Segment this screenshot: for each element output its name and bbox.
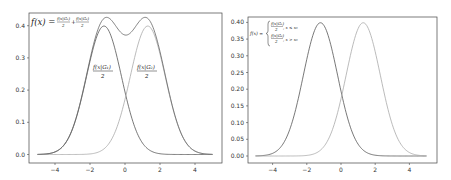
left-formula-frac1-den: 2 — [61, 23, 65, 28]
y-tick-label: 0.2 — [15, 86, 25, 93]
y-tick-label: 0.1 — [15, 118, 25, 125]
left-formula: f(x) = f(x|G₁) 2 + f(x|G₂) 2 — [30, 16, 89, 28]
right-chart: 0.000.050.100.150.200.250.300.350.40 −4−… — [231, 17, 437, 173]
y-tick-label: 0.10 — [231, 119, 245, 126]
left-axes-frame — [29, 13, 222, 163]
y-tick-label: 0.25 — [231, 69, 245, 76]
x-tick-label: 4 — [407, 166, 411, 173]
x-tick-label: −4 — [51, 166, 60, 173]
svg-text:f(x|G₂): f(x|G₂) — [136, 64, 155, 71]
svg-text:f(x|G₁): f(x|G₁) — [92, 64, 111, 71]
left-formula-frac1-num: f(x|G₁) — [56, 16, 70, 21]
y-tick-label: 0.05 — [231, 135, 245, 142]
svg-text:2: 2 — [144, 73, 149, 79]
y-tick-label: 0.15 — [231, 102, 245, 109]
x-tick-label: 2 — [158, 166, 162, 173]
y-tick-label: 0.30 — [231, 52, 245, 59]
y-tick-label: 0.20 — [231, 85, 245, 92]
x-tick-label: 2 — [373, 166, 377, 173]
x-tick-label: −2 — [302, 166, 311, 173]
y-tick-label: 0.40 — [231, 18, 245, 25]
right-y-axis: 0.000.050.100.150.200.250.300.350.40 — [231, 18, 248, 159]
left-y-axis: 0.00.10.20.30.4 — [15, 22, 29, 158]
left-formula-lhs: f(x) = — [30, 17, 55, 27]
left-curve-sum — [38, 17, 213, 154]
left-g1-label: f(x|G₁) 2 — [92, 64, 113, 79]
x-tick-label: 4 — [193, 166, 197, 173]
svg-text:, x > x₀: , x > x₀ — [283, 37, 298, 42]
svg-text:2: 2 — [274, 39, 278, 44]
x-tick-label: 0 — [339, 166, 343, 173]
right-formula: f(x) = f(x|G₁) 2 , x ≤ x₀ f(x|G₂) 2 , x … — [249, 21, 298, 46]
left-formula-frac2-den: 2 — [80, 23, 84, 28]
left-x-axis: −4−2024 — [51, 163, 198, 173]
right-x-axis: −4−2024 — [268, 163, 411, 173]
left-chart: 0.00.10.20.30.4 −4−2024 f(x) = f(x|G₁) 2… — [15, 13, 222, 173]
left-g2-label: f(x|G₂) 2 — [136, 64, 157, 79]
y-tick-label: 0.4 — [15, 22, 25, 29]
y-tick-label: 0.3 — [15, 54, 25, 61]
svg-text:2: 2 — [274, 27, 278, 32]
svg-text:2: 2 — [100, 73, 105, 79]
x-tick-label: −4 — [268, 166, 277, 173]
svg-text:, x ≤ x₀: , x ≤ x₀ — [283, 25, 298, 30]
y-tick-label: 0.35 — [231, 35, 245, 42]
y-tick-label: 0.00 — [231, 152, 245, 159]
y-tick-label: 0.0 — [15, 151, 25, 158]
x-tick-label: 0 — [123, 166, 127, 173]
left-curve-g1 — [38, 26, 213, 154]
right-curve-g1 — [256, 23, 427, 156]
right-formula-lhs: f(x) = — [249, 31, 263, 36]
left-formula-frac2-num: f(x|G₂) — [75, 16, 89, 21]
figure: 0.00.10.20.30.4 −4−2024 f(x) = f(x|G₁) 2… — [0, 0, 451, 180]
x-tick-label: −2 — [86, 166, 95, 173]
